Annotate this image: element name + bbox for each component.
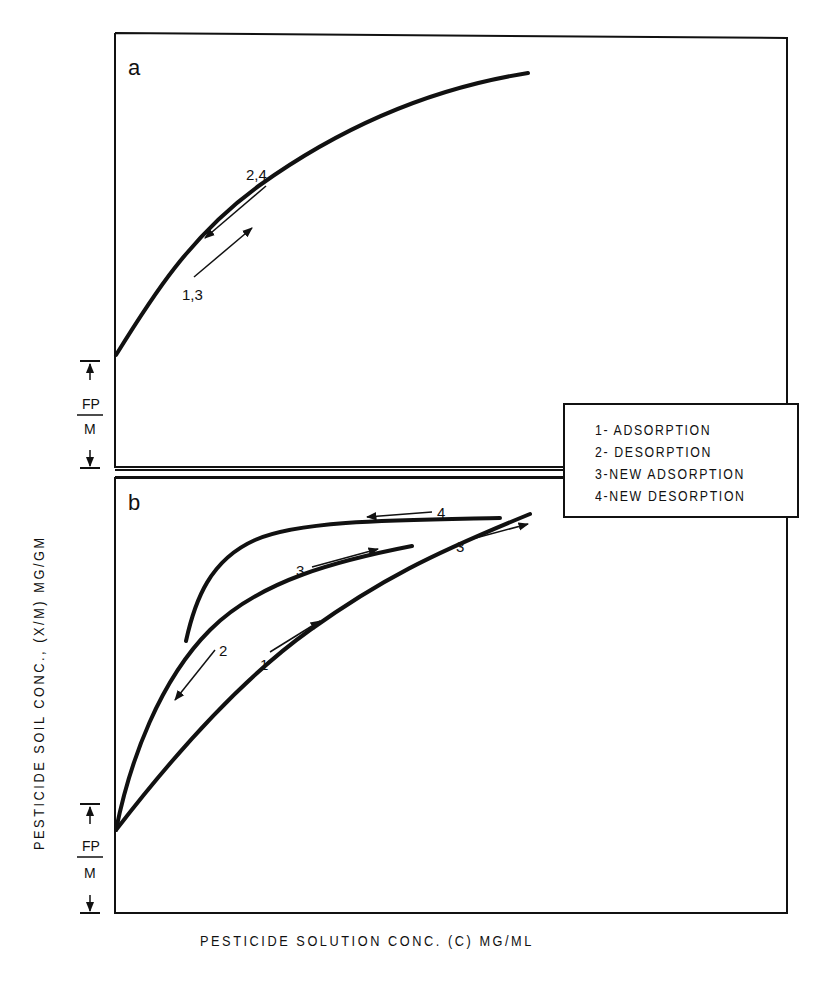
panel-b-fp: FP — [82, 838, 100, 854]
panel-b-curve-2-desorption — [116, 546, 412, 830]
legend-item-desorption: 2- DESORPTION — [595, 441, 761, 463]
panel-b-frame — [115, 477, 787, 913]
panel-a-annotation-24: 2,4 — [246, 166, 267, 183]
legend-item-adsorption: 1- ADSORPTION — [595, 419, 761, 441]
panel-b-annotation-3b: 3 — [456, 538, 464, 555]
panel-a-annotation-13: 1,3 — [182, 286, 203, 303]
y-axis-label: PESTICIDE SOIL CONC., (X/M) MG/GM — [30, 535, 47, 850]
x-axis-label: PESTICIDE SOLUTION CONC. (C) MG/ML — [200, 932, 534, 949]
panel-b-fpm-bracket — [77, 804, 103, 913]
panel-a-m: M — [84, 421, 96, 437]
panel-a-label: a — [128, 55, 141, 80]
panel-b-arrow-4 — [367, 512, 432, 517]
panel-b-annotation-4: 4 — [437, 504, 445, 521]
panel-a-fp: FP — [82, 396, 100, 412]
panel-b-label: b — [128, 490, 140, 515]
panel-b-annotation-1: 1 — [260, 656, 268, 673]
panel-a-arrow-desorption — [205, 186, 266, 238]
panel-a-frame — [115, 33, 787, 467]
panel-b-arrow-1 — [270, 621, 320, 652]
panel-b-annotation-3a: 3 — [296, 562, 304, 579]
legend-item-new-desorption: 4-NEW DESORPTION — [595, 485, 761, 507]
legend: 1- ADSORPTION 2- DESORPTION 3-NEW ADSORP… — [563, 403, 799, 518]
panel-b-m: M — [84, 865, 96, 881]
panel-b-arrow-3a — [312, 549, 378, 567]
legend-item-new-adsorption: 3-NEW ADSORPTION — [595, 463, 761, 485]
panel-b-curve-4-new-desorption — [186, 518, 500, 641]
panel-b-annotation-2: 2 — [219, 642, 227, 659]
panel-a-curve — [116, 73, 528, 355]
panel-b-arrow-2 — [175, 650, 215, 700]
panel-a-fpm-bracket — [77, 361, 103, 468]
